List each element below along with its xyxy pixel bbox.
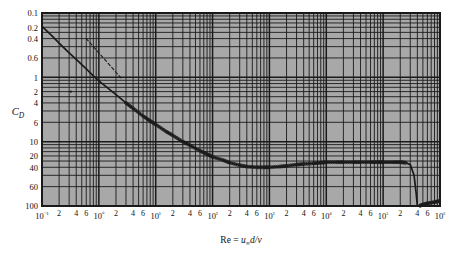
x-tick-label-minor: 6 — [255, 209, 259, 218]
y-tick-label: 2 — [34, 87, 38, 97]
x-tick-label-minor: 4 — [131, 209, 135, 218]
x-tick-label-minor: 2 — [398, 209, 402, 218]
x-tick-label-minor: 4 — [359, 209, 363, 218]
y-tick-label: 0.1 — [27, 8, 38, 18]
x-axis-title: Re = u∞d/ν — [220, 235, 262, 246]
x-tick-label-minor: 4 — [74, 209, 78, 218]
x-tick-label-minor: 6 — [425, 209, 429, 218]
y-tick-label: 0.4 — [27, 34, 38, 44]
drag-coefficient-figure: 1006040201064210.60.40.20.110⁻¹24610⁰246… — [0, 0, 453, 259]
x-tick-label-minor: 4 — [415, 209, 419, 218]
y-tick-label: 6 — [34, 118, 38, 128]
x-tick-label-minor: 2 — [341, 209, 345, 218]
y-tick-label: 60 — [30, 182, 39, 192]
x-tick-label-minor: 2 — [228, 209, 232, 218]
x-tick-label-minor: 2 — [114, 209, 118, 218]
x-tick-label-minor: 4 — [302, 209, 306, 218]
x-tick-label-minor: 6 — [198, 209, 202, 218]
x-tick-label-minor: 6 — [312, 209, 316, 218]
x-tick-label-minor: 4 — [245, 209, 249, 218]
x-tick-label-minor: 6 — [84, 209, 88, 218]
chart-canvas: 1006040201064210.60.40.20.110⁻¹24610⁰246… — [0, 0, 453, 259]
y-tick-label: 40 — [30, 163, 39, 173]
y-tick-label: 10 — [30, 137, 39, 147]
y-tick-label: 1 — [34, 73, 38, 83]
y-tick-label: 100 — [25, 201, 38, 211]
x-tick-label-minor: 2 — [285, 209, 289, 218]
x-tick-label-minor: 4 — [188, 209, 192, 218]
x-tick-label-minor: 2 — [57, 209, 61, 218]
y-tick-label: 0.2 — [27, 23, 38, 33]
y-tick-label: 20 — [30, 151, 39, 161]
x-tick-label-minor: 6 — [369, 209, 373, 218]
x-tick-label-minor: 2 — [171, 209, 175, 218]
x-tick-label-minor: 6 — [141, 209, 145, 218]
y-tick-label: 0.6 — [27, 53, 38, 63]
stray-mark — [70, 91, 72, 93]
